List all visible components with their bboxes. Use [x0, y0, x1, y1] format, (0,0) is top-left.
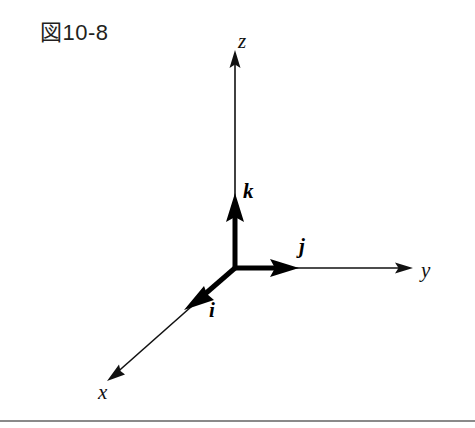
unit-vector-j-label: j: [296, 234, 305, 258]
coordinate-axes-diagram: z y x k j i: [0, 0, 475, 428]
figure-panel: 図10-8 z y x k j i: [0, 0, 475, 428]
bottom-divider: [0, 420, 475, 422]
unit-vector-k-label: k: [243, 179, 254, 203]
y-axis-label: y: [419, 258, 431, 282]
z-axis-label: z: [237, 29, 246, 53]
x-axis-label: x: [97, 380, 108, 404]
unit-vector-i-label: i: [209, 298, 215, 322]
unit-vector-i-shaft: [205, 268, 235, 294]
